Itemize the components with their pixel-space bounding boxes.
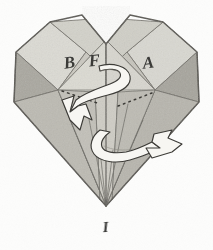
origami-heart-figure: B F A I Folded paper heart with rotation… (0, 0, 213, 250)
paper-grain-overlay (0, 0, 213, 250)
origami-heart-drawing: B F A I (0, 0, 213, 250)
label-b: B (61, 52, 76, 73)
label-a: A (141, 52, 156, 72)
